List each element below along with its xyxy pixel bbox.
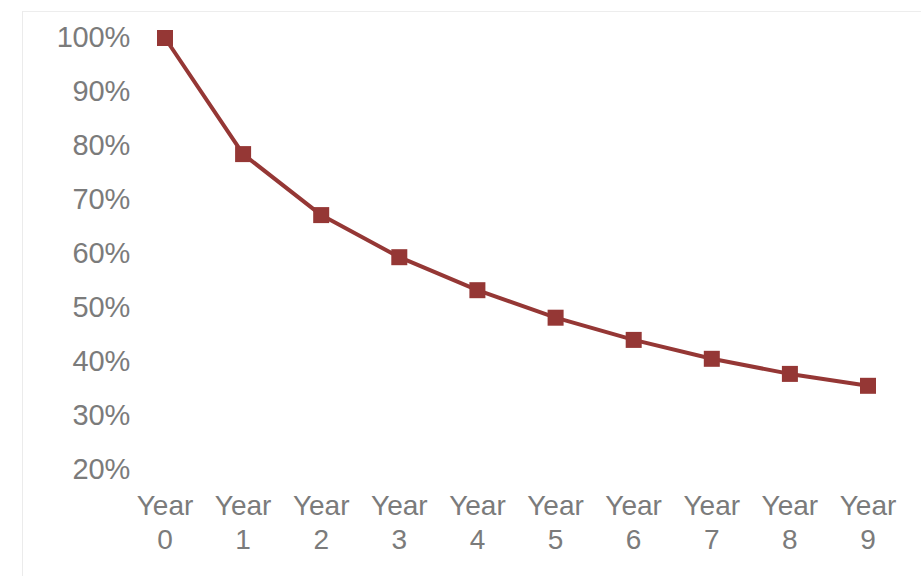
data-point-marker[interactable] xyxy=(626,332,642,348)
data-point-marker[interactable] xyxy=(313,207,329,223)
data-point-marker[interactable] xyxy=(391,249,407,265)
series-line xyxy=(165,38,868,386)
data-point-marker[interactable] xyxy=(860,378,876,394)
data-point-marker[interactable] xyxy=(704,351,720,367)
data-point-marker[interactable] xyxy=(157,30,173,46)
data-point-marker[interactable] xyxy=(548,310,564,326)
x-tick-label: Year9 xyxy=(822,489,914,557)
data-point-marker[interactable] xyxy=(235,146,251,162)
x-axis: Year0Year1Year2Year3Year4Year5Year6Year7… xyxy=(0,489,921,588)
chart-container: 100%90%80%70%60%50%40%30%20% Year0Year1Y… xyxy=(0,0,921,588)
x-tick-label-line1: Year xyxy=(822,489,914,523)
x-tick-label-line2: 9 xyxy=(822,523,914,557)
data-point-marker[interactable] xyxy=(782,366,798,382)
data-point-marker[interactable] xyxy=(469,282,485,298)
